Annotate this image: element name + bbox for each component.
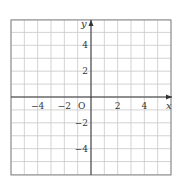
y-axis-label: y [80, 18, 87, 29]
y-axis-arrow-icon [89, 20, 94, 26]
x-tick-labels: −4−224 [31, 101, 147, 111]
y-tick-label: −2 [75, 118, 88, 128]
x-tick-label: −2 [58, 101, 71, 111]
x-axis-label: x [166, 100, 172, 111]
y-tick-label: 4 [82, 40, 88, 50]
coordinate-plane: x y O −4−224 42−2−4 [0, 0, 179, 184]
y-tick-label: −4 [75, 144, 89, 154]
x-tick-label: −4 [31, 101, 45, 111]
x-tick-label: 2 [115, 101, 121, 111]
x-tick-label: 4 [141, 101, 147, 111]
origin-label: O [78, 101, 85, 111]
y-tick-label: 2 [82, 66, 88, 76]
